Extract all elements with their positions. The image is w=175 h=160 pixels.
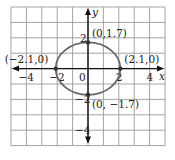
point-marker: [86, 40, 90, 44]
x-tick-label: 0: [79, 71, 86, 83]
point-marker: [53, 66, 57, 70]
x-tick-label: 4: [147, 71, 154, 83]
y-axis-label: y: [91, 6, 99, 18]
point-label: (2.1,0): [124, 53, 159, 65]
y-axis-arrow-down-icon: [85, 137, 91, 144]
axes: x y: [12, 6, 165, 144]
point-marker: [86, 93, 90, 97]
point-label: (−2.1,0): [5, 53, 49, 65]
x-tick-label: −4: [18, 71, 34, 83]
point-label: (0, −1.7): [92, 98, 139, 110]
ellipse-graph: x y −4−20242−2−4 (0,1.7)(2.1,0)(−2.1,0)(…: [0, 0, 175, 160]
point-marker: [118, 66, 122, 70]
y-tick-label: −4: [75, 124, 91, 136]
point-label: (0,1.7): [92, 27, 127, 39]
x-axis-label: x: [159, 70, 165, 82]
y-axis-arrow-up-icon: [85, 8, 91, 15]
